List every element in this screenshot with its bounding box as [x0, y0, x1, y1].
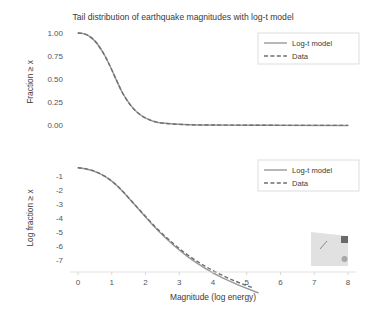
y-tick-label: -4 — [56, 214, 64, 223]
legend-box-top — [258, 33, 359, 64]
y-tick-label: -7 — [56, 256, 64, 265]
x-tick-label: 0 — [76, 278, 81, 287]
y-tick-label: -6 — [56, 242, 64, 251]
legend-label-model-top: Log-t model — [292, 39, 332, 48]
y-tick-label: -3 — [56, 200, 64, 209]
band-lower-endpoint-marker — [342, 256, 348, 262]
chart-figure: Tail distribution of earthquake magnitud… — [0, 0, 366, 318]
y-tick-label: 0.75 — [47, 52, 63, 61]
legend-bottom: Log-t model Data — [258, 160, 359, 191]
y-axis-label-top: Fraction ≥ x — [25, 59, 35, 104]
y-tick-label: -5 — [56, 228, 64, 237]
y-tick-label: 0.00 — [47, 121, 63, 130]
legend-label-data-top: Data — [292, 52, 309, 61]
x-tick-label: 6 — [278, 278, 283, 287]
x-tick-label: 7 — [312, 278, 317, 287]
x-tick-label: 1 — [110, 278, 115, 287]
chart-title: Tail distribution of earthquake magnitud… — [72, 12, 293, 22]
y-axis-label-bottom: Log fraction ≥ x — [25, 189, 35, 247]
y-tick-label: -2 — [56, 186, 64, 195]
y-tick-label: 1.00 — [47, 29, 63, 38]
x-axis-label: Magnitude (log energy) — [170, 292, 256, 302]
y-tick-label: 0.50 — [47, 75, 63, 84]
x-tick-label: 5 — [245, 278, 250, 287]
x-tick-label: 3 — [177, 278, 182, 287]
data-endpoint-square-marker — [341, 236, 348, 243]
legend-box-bottom — [258, 160, 359, 191]
x-tick-label: 2 — [143, 278, 148, 287]
y-tick-label: 0.25 — [47, 98, 63, 107]
legend-label-data-bottom: Data — [292, 179, 309, 188]
legend-label-model-bottom: Log-t model — [292, 166, 332, 175]
legend-top: Log-t model Data — [258, 33, 359, 64]
x-tick-label: 8 — [346, 278, 351, 287]
x-tick-label: 4 — [211, 278, 216, 287]
y-tick-label: -1 — [56, 172, 64, 181]
